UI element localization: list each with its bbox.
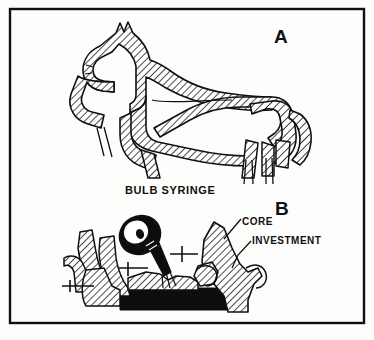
bulb-syringe-label: BULB SYRINGE [125, 184, 215, 196]
horse-rear-leg-3 [276, 140, 290, 168]
figure-root: A B BULB SYRINGE CORE INVESTMENT [0, 0, 374, 340]
panel-b-letter: B [275, 198, 289, 220]
core-label: CORE [242, 216, 273, 227]
black-base-slab [120, 288, 232, 310]
panel-a-letter: A [274, 26, 288, 48]
figure-illustration [0, 0, 374, 340]
investment-label: INVESTMENT [252, 235, 321, 246]
